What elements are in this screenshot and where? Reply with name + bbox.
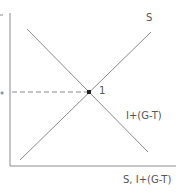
s-curve-label: S	[146, 13, 152, 23]
equilibrium-point	[87, 90, 91, 94]
x-axis-label: S, I+(G-T)	[123, 175, 171, 185]
diagram-canvas	[0, 0, 184, 195]
investment-curve-label: I+(G-T)	[126, 111, 162, 121]
y-level-label: *	[0, 92, 4, 100]
s-curve	[20, 32, 151, 160]
equilibrium-label: 1	[99, 86, 105, 96]
